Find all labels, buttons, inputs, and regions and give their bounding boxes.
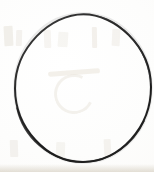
- scanned-page: [0, 0, 154, 172]
- circle-stroke-heavy-arc: [17, 108, 144, 162]
- circle-outline-figure: [0, 0, 154, 172]
